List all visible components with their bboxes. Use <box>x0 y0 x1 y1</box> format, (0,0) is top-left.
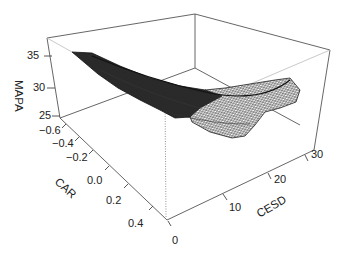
y-tick-label: 30 <box>311 149 323 160</box>
x-tick-label: 0.4 <box>128 218 143 229</box>
y-tick-label: 0 <box>172 235 178 246</box>
y-tick-label: 20 <box>274 174 286 185</box>
z-tick-label: 25 <box>39 110 51 121</box>
z-ticks <box>44 56 60 116</box>
x-tick-label: −0.6 <box>39 125 61 136</box>
z-tick-label: 35 <box>27 50 39 61</box>
y-tick-label: 10 <box>229 202 241 213</box>
x-tick-label: 0.0 <box>87 175 102 186</box>
dotted-vertical-edge <box>165 96 166 218</box>
x-tick-label: −0.4 <box>52 138 74 149</box>
surface-mesh <box>72 52 300 138</box>
x-tick-label: −0.2 <box>66 152 88 163</box>
x-tick-label: 0.2 <box>106 195 121 206</box>
z-axis-title: MAPA <box>13 80 25 112</box>
y-ticks <box>168 155 308 226</box>
z-tick-label: 30 <box>33 82 45 93</box>
